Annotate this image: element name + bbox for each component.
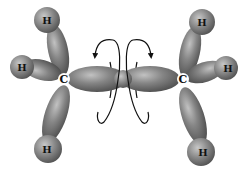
carbon-carbon-sigma-bond bbox=[67, 66, 180, 92]
right-carbon-label: C bbox=[179, 73, 188, 86]
right-h-bottom-label: H bbox=[198, 147, 207, 158]
left-h-bottom-label: H bbox=[42, 144, 51, 155]
right-rotation-arrow bbox=[133, 40, 151, 56]
right-h-top-label: H bbox=[197, 17, 206, 28]
right-bottom-ch-bond-orbital bbox=[173, 84, 212, 148]
ethane-orbital-diagram: C C H H H H H H bbox=[0, 0, 246, 173]
left-h-top-label: H bbox=[42, 15, 51, 26]
right-h-mid-label: H bbox=[223, 63, 232, 74]
left-carbon-label: C bbox=[60, 73, 69, 86]
left-rotation-arrow bbox=[95, 40, 113, 56]
right-methyl-group bbox=[173, 9, 238, 166]
left-h-mid-label: H bbox=[17, 62, 26, 73]
